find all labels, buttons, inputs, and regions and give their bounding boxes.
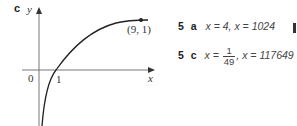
- origin-label: 0: [28, 72, 34, 84]
- question-number: 5: [178, 49, 184, 61]
- var-x: x =: [205, 49, 219, 61]
- answer-text: , x = 117649: [236, 49, 293, 61]
- log-graph: [0, 0, 160, 126]
- fraction: 1 49: [223, 46, 236, 67]
- graph-svg: [0, 0, 160, 126]
- y-axis-arrow-icon: [36, 7, 42, 14]
- answer-5a: 5 a x = 4, x = 1024: [178, 20, 275, 32]
- answer-5c: 5 c x = 1 49 , x = 117649: [178, 46, 294, 67]
- x-axis-label: x: [148, 72, 153, 84]
- fraction-denominator: 49: [223, 57, 236, 67]
- question-part: c: [191, 49, 197, 61]
- question-part: a: [191, 20, 197, 32]
- answer-text: x = 4, x = 1024: [206, 20, 275, 32]
- y-axis-label: y: [27, 3, 32, 15]
- part-label: c: [14, 2, 20, 14]
- point-9-1: [139, 18, 143, 22]
- cut-off-glyph: [293, 23, 296, 33]
- intercept-label: 1: [56, 73, 62, 85]
- point-label: (9, 1): [127, 23, 151, 35]
- question-number: 5: [178, 20, 184, 32]
